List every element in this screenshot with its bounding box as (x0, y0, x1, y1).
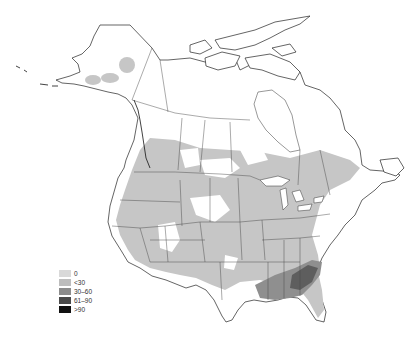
legend-swatch-1 (59, 279, 71, 286)
legend-swatch-2 (59, 288, 71, 295)
legend-label-1: <30 (74, 278, 85, 287)
legend-item-4: >90 (59, 305, 92, 314)
map-legend: 0 <30 30–60 61–90 >90 (59, 269, 92, 314)
legend-item-0: 0 (59, 269, 92, 278)
legend-label-3: 61–90 (74, 296, 92, 305)
legend-item-2: 30–60 (59, 287, 92, 296)
legend-label-4: >90 (74, 305, 85, 314)
legend-item-3: 61–90 (59, 296, 92, 305)
legend-label-0: 0 (74, 269, 78, 278)
legend-label-2: 30–60 (74, 287, 92, 296)
legend-item-1: <30 (59, 278, 92, 287)
legend-swatch-3 (59, 297, 71, 304)
aleutian-islands (16, 66, 58, 86)
legend-swatch-0 (59, 270, 71, 277)
legend-swatch-4 (59, 306, 71, 313)
